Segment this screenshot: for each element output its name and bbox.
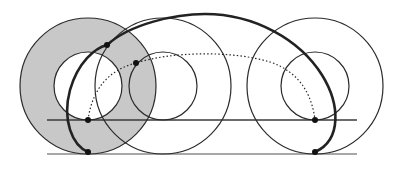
inner-start-point (85, 117, 91, 123)
inner-mid-point (133, 60, 139, 66)
start-wheel-inner-circle (54, 52, 122, 120)
outer-end-point (312, 149, 318, 155)
start-wheel-shaded-ring (20, 18, 156, 154)
outer-start-point (85, 149, 91, 155)
end-wheel-inner-circle (281, 52, 349, 120)
rolling-wheel-diagram (0, 0, 403, 169)
outer-mid-point (104, 42, 110, 48)
inner-end-point (312, 117, 318, 123)
end-wheel-outer-circle (247, 18, 383, 154)
